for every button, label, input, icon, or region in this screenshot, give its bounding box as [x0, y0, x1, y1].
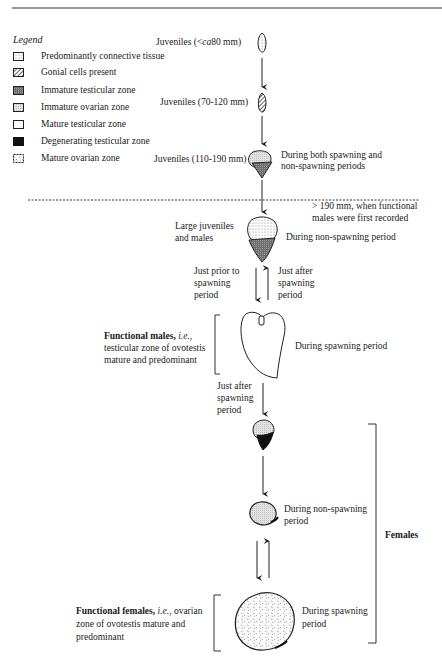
arrow-label-after: period: [278, 290, 302, 302]
stage-note: During non-spawning: [284, 504, 367, 516]
stage-label-large-juveniles: Large juveniles: [175, 221, 234, 233]
label-part: , ovarian: [169, 606, 202, 616]
stage-label-functional-females: predominant: [76, 632, 124, 644]
arrow-label-after: Just after: [217, 381, 252, 393]
stage-note: During spawning: [302, 606, 368, 618]
stage-label-functional-females: zone of ovotestis mature and: [76, 619, 185, 631]
gonad-juvenile-mixed-icon: [252, 162, 272, 178]
females-label: Females: [385, 530, 418, 542]
stage-label-juveniles-lt80: Juveniles (<ca80 mm): [156, 37, 241, 49]
arrow-label-after: spawning: [278, 278, 314, 290]
gonad-juvenile-small-icon: [258, 33, 266, 52]
label-part: ca: [202, 37, 211, 47]
stage-note: During spawning period: [295, 341, 387, 353]
arrow-label-prior: period: [194, 290, 218, 302]
stage-label-functional-females: Functional females, i.e., ovarian: [76, 606, 202, 618]
legend-item-label: Immature ovarian zone: [41, 102, 129, 114]
immature-testicular-swatch-icon: [14, 87, 24, 95]
stage-note: During both spawning and: [281, 150, 382, 162]
legend-title: Legend: [13, 34, 42, 46]
stage-label-juveniles-70-120: Juveniles (70-120 mm): [160, 97, 248, 109]
legend-item-label: Immature testicular zone: [41, 85, 135, 97]
stage-label-functional-males: testicular zone of ovotestis: [104, 343, 206, 355]
gonad-juvenile-hatched-icon: [258, 93, 266, 112]
label-part: Functional females,: [76, 606, 155, 616]
arrow-label-prior: Just prior to: [194, 266, 239, 278]
legend-item-label: Mature ovarian zone: [41, 153, 120, 165]
immature-ovarian-swatch-icon: [14, 104, 24, 112]
legend-item-label: Predominantly connective tissue: [41, 51, 164, 63]
females-bracket: [368, 424, 376, 643]
label-part: Functional males,: [104, 331, 176, 341]
stage-note: During non-spawning period: [286, 232, 396, 244]
arrow-label-after: spawning: [217, 393, 253, 405]
stage-note: period: [284, 516, 308, 528]
legend-swatches: [14, 53, 24, 163]
label-part: 80 mm): [211, 37, 241, 47]
degenerating-testicular-swatch-icon: [14, 138, 24, 146]
functional-females-bracket: [214, 595, 221, 651]
label-part: i.e.: [178, 331, 190, 341]
threshold-note: males were first recorded: [312, 213, 408, 225]
connective-tissue-swatch-icon: [14, 53, 24, 61]
label-part: Juveniles (<: [156, 37, 202, 47]
stage-note: period: [302, 619, 326, 631]
gonad-large-juvenile-icon: [249, 238, 275, 262]
mature-testicular-swatch-icon: [14, 121, 24, 129]
stage-label-functional-males: Functional males, i.e.,: [104, 331, 192, 343]
arrow-label-after: period: [217, 405, 241, 417]
arrow-label-prior: spawning: [194, 278, 230, 290]
gonial-cells-swatch-icon: [14, 69, 24, 77]
stage-label-juveniles-110-190: Juveniles (110-190 mm): [154, 154, 247, 166]
stage-note: non-spawning periods: [281, 161, 365, 173]
legend-item-label: Degenerating testicular zone: [41, 136, 150, 148]
stage-label-large-juveniles: and males: [175, 233, 213, 245]
mature-ovarian-swatch-icon: [14, 155, 24, 163]
label-part: i.e.: [158, 606, 170, 616]
threshold-note: > 190 mm, when functional: [312, 201, 417, 213]
arrow-label-after: Just after: [278, 266, 313, 278]
label-part: ,: [190, 331, 192, 341]
legend-item-label: Mature testicular zone: [41, 119, 126, 131]
functional-males-bracket: [215, 315, 220, 374]
stage-label-functional-males: mature and predominant: [104, 355, 197, 367]
legend-item-label: Gonial cells present: [41, 67, 116, 79]
